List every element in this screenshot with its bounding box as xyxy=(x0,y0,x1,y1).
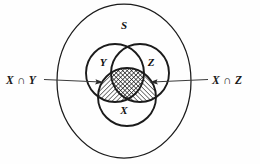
set-label-y: Y xyxy=(100,56,108,68)
right-annotation-line xyxy=(152,80,208,83)
left-annotation-line xyxy=(44,80,101,83)
venn-diagram-canvas: S Y Z X X ∩ Y X ∩ Z xyxy=(0,0,260,164)
right-annotation-label: X ∩ Z xyxy=(211,74,242,86)
venn-diagram-figure: S Y Z X X ∩ Y X ∩ Z xyxy=(0,0,260,164)
set-label-x: X xyxy=(119,104,128,116)
left-annotation-label: X ∩ Y xyxy=(5,74,37,86)
set-label-z: Z xyxy=(147,56,155,68)
universal-set-label: S xyxy=(121,19,127,31)
